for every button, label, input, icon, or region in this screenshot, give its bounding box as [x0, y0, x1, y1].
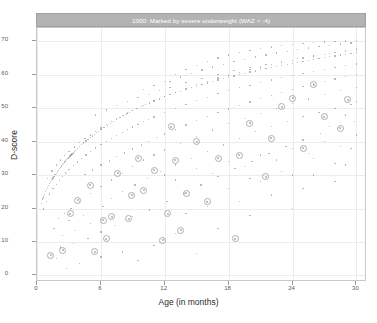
data-point	[249, 101, 250, 102]
data-point	[81, 158, 82, 159]
facet-strip: 1000: Marked by severe underweight (WAZ …	[36, 13, 366, 27]
data-point	[77, 148, 78, 149]
data-point	[281, 92, 282, 93]
data-point	[62, 235, 63, 236]
gridline-horizontal	[37, 108, 365, 109]
highlighted-data-point	[215, 155, 222, 162]
data-point	[324, 57, 325, 58]
data-point	[313, 158, 314, 159]
data-point	[122, 173, 123, 174]
data-point	[287, 51, 288, 52]
data-point	[73, 243, 74, 244]
data-point	[249, 215, 250, 216]
data-point	[122, 132, 123, 133]
data-point	[318, 46, 319, 47]
y-tick-label: 60	[0, 70, 8, 76]
data-point	[58, 218, 59, 219]
data-point	[175, 92, 176, 93]
data-point	[200, 184, 201, 185]
data-point	[345, 65, 346, 66]
data-point	[287, 121, 288, 122]
data-point	[345, 51, 346, 52]
data-point	[100, 256, 101, 257]
highlighted-data-point	[321, 113, 328, 120]
data-point	[119, 117, 120, 118]
data-point	[43, 208, 44, 209]
data-point	[217, 176, 218, 177]
data-point	[276, 108, 277, 109]
y-tick-mark	[32, 107, 36, 108]
data-point	[175, 179, 176, 180]
y-tick-label: 10	[0, 237, 8, 243]
data-point	[132, 126, 133, 127]
data-point	[159, 90, 160, 91]
data-point	[153, 154, 154, 155]
data-point	[239, 138, 240, 139]
data-point	[201, 78, 202, 79]
data-point	[271, 126, 272, 127]
data-point	[49, 193, 50, 194]
data-point	[169, 94, 170, 95]
data-point	[191, 87, 192, 88]
data-point	[113, 121, 114, 122]
data-point	[239, 105, 240, 106]
data-point	[63, 163, 64, 164]
data-point	[223, 64, 224, 65]
data-point	[217, 57, 218, 58]
x-axis-label: Age (in months)	[0, 297, 377, 307]
y-tick-mark	[32, 274, 36, 275]
data-point	[79, 146, 80, 147]
data-point	[90, 223, 91, 224]
data-point	[143, 105, 144, 106]
data-point	[249, 71, 250, 72]
data-point	[90, 134, 91, 135]
data-point	[180, 143, 181, 144]
highlighted-data-point	[232, 235, 239, 242]
data-point	[132, 148, 133, 149]
data-point	[292, 103, 293, 104]
data-point	[68, 169, 69, 170]
data-point	[313, 55, 314, 56]
y-tick-label: 30	[0, 170, 8, 176]
data-point	[217, 93, 218, 94]
gridline-horizontal	[37, 142, 365, 143]
data-point	[95, 147, 96, 148]
data-point	[56, 258, 57, 259]
data-point	[329, 53, 330, 54]
data-point	[169, 81, 170, 82]
data-point	[265, 54, 266, 55]
data-point	[137, 97, 138, 98]
data-point	[73, 165, 74, 166]
data-point	[143, 121, 144, 122]
data-point	[239, 201, 240, 202]
data-point	[149, 209, 150, 210]
data-point	[106, 109, 107, 110]
data-point	[87, 238, 88, 239]
data-point	[281, 61, 282, 62]
data-point	[77, 161, 78, 162]
data-point	[153, 116, 154, 117]
data-point	[285, 146, 286, 147]
data-point	[46, 201, 47, 202]
data-point	[132, 216, 133, 217]
data-point	[52, 188, 53, 189]
data-point	[271, 194, 272, 195]
data-point	[85, 154, 86, 155]
data-point	[345, 54, 346, 55]
data-point	[260, 48, 261, 49]
highlighted-data-point	[108, 213, 115, 220]
data-point	[297, 58, 298, 59]
gridline-vertical	[229, 28, 230, 280]
data-point	[75, 230, 76, 231]
y-tick-label: 70	[0, 36, 8, 42]
data-point	[212, 129, 213, 130]
data-point	[281, 77, 282, 78]
data-point	[308, 98, 309, 99]
data-point	[271, 64, 272, 65]
y-tick-mark	[32, 40, 36, 41]
data-point	[249, 85, 250, 86]
highlighted-data-point	[172, 157, 179, 164]
highlighted-data-point	[100, 217, 107, 224]
y-tick-mark	[32, 208, 36, 209]
chart-container: 1000: Marked by severe underweight (WAZ …	[0, 0, 377, 323]
